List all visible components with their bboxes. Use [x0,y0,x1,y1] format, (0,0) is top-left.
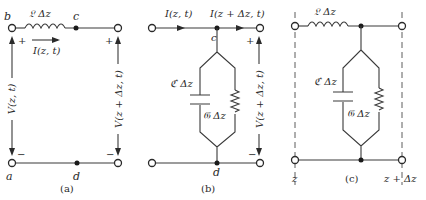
capacitor-icon [333,92,353,101]
inductor-label: 𝔏 Δz [29,8,51,19]
arrow-head-icon [9,36,15,44]
conductance-label: 𝔊 Δz [347,108,370,119]
minus-sign: − [248,149,256,160]
minus-sign: − [17,149,25,160]
minus-sign: − [106,149,114,160]
arrow-head-icon [256,36,262,44]
plus-sign: + [18,35,26,46]
node-d-dot [215,161,220,166]
terminal-b [9,25,16,32]
right-position-label: z + Δz [383,173,417,184]
terminal-right-top [115,25,122,32]
node-b-label: b [4,10,11,23]
inductor-label: 𝔏 Δz [314,6,336,17]
terminal-right-bottom [257,160,264,167]
capacitor-label: ℭ Δz [170,78,193,89]
panel-b: I(z, t) I(z + Δz, t) c d ℭ Δz 𝔊 Δz + − V… [149,8,268,194]
node-a-label: a [6,170,13,183]
junction-dot [359,158,364,163]
arrow-head-icon [115,148,121,156]
capacitor-label: ℭ Δz [314,76,337,87]
transmission-line-diagram: b c a d 𝔏 Δz I(z, t) + − + − V(z, t) V(z… [0,0,426,200]
arrow-head-icon [177,25,185,31]
terminal-left-top [292,23,299,30]
terminal-right-bottom [115,160,122,167]
voltage-label: V(z + Δz, t) [254,70,265,128]
terminal-right-top [399,23,406,30]
current-out-label: I(z + Δz, t) [209,8,265,19]
node-d-label: d [213,166,220,179]
panel-a: b c a d 𝔏 Δz I(z, t) + − + − V(z, t) V(z… [4,8,126,194]
terminal-left-bottom [149,160,156,167]
capacitor-icon [190,95,210,104]
node-c-label: c [211,32,217,43]
terminal-right-top [257,25,264,32]
terminal-left-top [149,25,156,32]
inductor-icon [25,24,65,28]
conductance-label: 𝔊 Δz [203,110,226,121]
caption-c: (c) [345,173,359,184]
plus-sign: + [246,35,254,46]
node-d-dot [75,161,80,166]
current-label: I(z, t) [32,45,60,56]
plus-sign: + [105,35,113,46]
terminal-right-bottom [399,157,406,164]
right-voltage-label: V(z + Δz, t) [113,70,124,128]
arrow-head-icon [52,37,60,43]
arrow-head-icon [236,25,244,31]
arrow-head-icon [115,36,121,44]
node-d-label: d [73,170,80,183]
resistor-icon [375,88,383,110]
arrow-head-icon [256,148,262,156]
terminal-a [9,160,16,167]
caption-a: (a) [60,183,74,194]
inductor-icon [308,22,348,26]
terminal-left-bottom [292,157,299,164]
caption-b: (b) [201,183,215,194]
left-position-label: z [291,173,298,184]
node-c-dot [74,26,79,31]
resistor-icon [231,90,239,112]
node-c-label: c [73,10,79,23]
current-in-label: I(z, t) [164,8,192,19]
panel-c: 𝔏 Δz ℭ Δz 𝔊 Δz z z + Δz (c) [291,6,417,185]
arrow-head-icon [9,148,15,156]
left-voltage-label: V(z, t) [6,84,17,115]
